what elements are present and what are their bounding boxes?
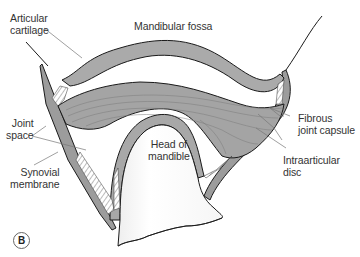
- label-line: mandible: [148, 150, 190, 162]
- label-synovial-membrane: Synovial membrane: [10, 166, 59, 190]
- label-line: Joint: [6, 117, 34, 129]
- label-line: Fibrous: [298, 112, 355, 124]
- label-line: Articular: [10, 12, 49, 24]
- label-intraarticular-disc: Intraarticular disc: [283, 154, 340, 178]
- label-articular-cartilage: Articular cartilage: [10, 12, 49, 36]
- label-line: Head of: [148, 138, 190, 150]
- label-line: Intraarticular: [283, 154, 340, 166]
- label-line: Synovial: [10, 166, 59, 178]
- label-line: disc: [283, 166, 340, 178]
- panel-letter-badge: B: [13, 232, 30, 249]
- articular-cartilage-band: [62, 40, 284, 91]
- label-line: space: [6, 129, 34, 141]
- temporal-bone-outline-right: [286, 16, 322, 70]
- label-head-of-mandible: Head of mandible: [148, 138, 190, 162]
- label-line: joint capsule: [298, 124, 355, 136]
- temporal-bone-outline-left: [26, 42, 48, 66]
- label-fibrous-joint-capsule: Fibrous joint capsule: [298, 112, 355, 136]
- label-mandibular-fossa: Mandibular fossa: [134, 20, 212, 32]
- label-line: Mandibular fossa: [134, 20, 212, 32]
- label-line: membrane: [10, 178, 59, 190]
- label-line: cartilage: [10, 24, 49, 36]
- label-joint-space: Joint space: [6, 117, 34, 141]
